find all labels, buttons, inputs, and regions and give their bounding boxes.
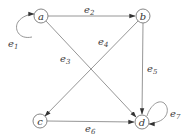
svg-text:c: c xyxy=(37,116,43,127)
edge-label-e3: e3 xyxy=(60,53,71,66)
edge-label-e6: e6 xyxy=(85,123,96,136)
svg-text:b: b xyxy=(140,11,146,22)
edge-e1 xyxy=(17,14,34,37)
edge-e5 xyxy=(142,23,143,114)
edge-e7 xyxy=(147,102,167,124)
node-c: c xyxy=(33,114,47,128)
svg-text:d: d xyxy=(139,117,145,128)
node-b: b xyxy=(136,9,150,23)
edge-label-e4: e4 xyxy=(98,36,108,49)
node-a: a xyxy=(34,9,48,23)
edge-label-e7: e7 xyxy=(170,108,181,121)
node-d: d xyxy=(135,115,149,129)
edge-label-e1: e1 xyxy=(8,38,18,51)
svg-text:a: a xyxy=(38,11,44,22)
edge-label-e2: e2 xyxy=(84,4,95,17)
edge-e6 xyxy=(47,121,134,122)
graph-canvas: a b c d e1 e2 e3 e4 e5 e6 e7 xyxy=(0,0,189,138)
edge-label-e5: e5 xyxy=(147,63,158,76)
